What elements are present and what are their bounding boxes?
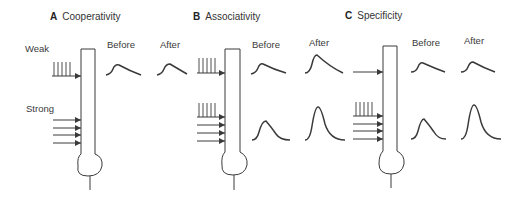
panel-a-neuron <box>78 49 102 190</box>
panel-c-weak-after-epsp <box>461 62 495 72</box>
panel-c-neuron <box>379 46 404 188</box>
panel-c-strong-inputs <box>353 102 383 139</box>
panel-b-strong-after-epsp <box>305 107 345 140</box>
panel-b-strong-inputs <box>197 103 225 141</box>
panel-b-neuron <box>222 49 247 190</box>
panel-a-strong-inputs <box>53 120 81 143</box>
panel-b-strong-before-epsp <box>252 121 290 140</box>
panel-a-weak-after-epsp <box>157 64 187 75</box>
panel-b-weak-after-epsp <box>305 55 343 73</box>
panel-b-weak-input <box>197 58 225 73</box>
panel-a-weak-before-epsp <box>106 65 141 75</box>
ltp-diagram <box>0 0 526 201</box>
panel-c-strong-before-epsp <box>411 119 446 139</box>
panel-b-weak-before-epsp <box>251 64 286 74</box>
panel-c-strong-after-epsp <box>461 105 501 139</box>
panel-a-weak-input <box>52 62 81 76</box>
panel-c-weak-before-epsp <box>411 63 445 72</box>
